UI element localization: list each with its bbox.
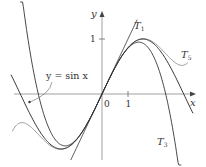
sin-label: y = sin x <box>45 70 88 81</box>
taylor-polynomials-plot: y x 0 1 1 y = sin x T1 T5 T3 <box>0 0 206 167</box>
x-tick-label-1: 1 <box>126 99 132 109</box>
y-tick-label-1: 1 <box>90 34 96 44</box>
t5-label: T5 <box>181 49 192 61</box>
y-axis-label: y <box>90 8 97 19</box>
x-axis-label: x <box>190 97 196 108</box>
y-axis-arrow-icon <box>100 11 105 17</box>
t3-label: T3 <box>157 136 168 148</box>
sin-label-arrow-tip-icon <box>28 101 30 103</box>
origin-label: 0 <box>104 99 110 109</box>
t1-label: T1 <box>134 20 145 32</box>
x-axis-arrow-icon <box>190 92 196 97</box>
sin-label-arrow <box>30 82 52 102</box>
